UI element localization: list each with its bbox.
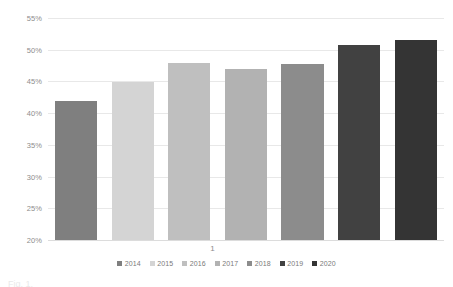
y-axis-tick-label: 35% [27, 140, 42, 149]
x-axis-category-label-text: 1 [210, 244, 214, 253]
legend-item-label: 2017 [222, 260, 238, 267]
y-axis-tick-label: 25% [27, 204, 42, 213]
legend-item-2016[interactable]: 2016 [182, 260, 205, 267]
bar-2020 [395, 40, 437, 240]
bar-2014 [55, 101, 97, 240]
bar-series-group [48, 18, 444, 240]
legend-item-2014[interactable]: 2014 [117, 260, 140, 267]
legend-item-label: 2014 [125, 260, 141, 267]
legend-item-label: 2019 [287, 260, 303, 267]
bar-chart: 55%50%45%40%35%30%25%20% 1 2014201520162… [0, 0, 453, 287]
y-axis-tick-label: 40% [27, 109, 42, 118]
bar-2015 [112, 82, 154, 240]
bar-2019 [338, 45, 380, 240]
plot-area: 55%50%45%40%35%30%25%20% [48, 18, 444, 240]
legend-item-2017[interactable]: 2017 [215, 260, 238, 267]
legend-swatch-icon [280, 261, 285, 266]
legend-swatch-icon [117, 261, 122, 266]
y-axis-tick-label: 30% [27, 172, 42, 181]
y-axis-tick-label: 50% [27, 45, 42, 54]
legend-item-2015[interactable]: 2015 [150, 260, 173, 267]
legend-swatch-icon [182, 261, 187, 266]
legend-item-label: 2018 [255, 260, 271, 267]
legend-item-label: 2016 [190, 260, 206, 267]
legend-item-2020[interactable]: 2020 [312, 260, 335, 267]
legend-item-label: 2020 [320, 260, 336, 267]
legend-item-label: 2015 [157, 260, 173, 267]
x-axis-category-label: 1 [0, 244, 453, 253]
legend-swatch-icon [215, 261, 220, 266]
gridline: 20% [48, 240, 444, 241]
legend-swatch-icon [247, 261, 252, 266]
bar-2018 [281, 64, 323, 240]
legend-swatch-icon [150, 261, 155, 266]
legend-swatch-icon [312, 261, 317, 266]
chart-legend: 2014201520162017201820192020 [0, 260, 453, 267]
legend-item-2019[interactable]: 2019 [280, 260, 303, 267]
bottom-text-artifact: Fig. 1. [8, 280, 33, 287]
legend-item-2018[interactable]: 2018 [247, 260, 270, 267]
y-axis-tick-label: 45% [27, 77, 42, 86]
y-axis-tick-label: 55% [27, 14, 42, 23]
bar-2017 [225, 69, 267, 240]
bar-2016 [168, 63, 210, 240]
